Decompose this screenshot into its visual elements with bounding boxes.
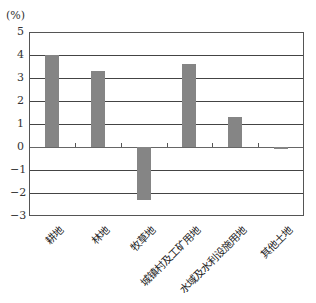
x-tick xyxy=(167,143,168,147)
bar-chart: (%) 543210−1−2−3 耕地林地牧草地城镇村及工矿用地水域及水利设施用… xyxy=(0,0,316,303)
y-tick-label: 2 xyxy=(10,95,24,106)
x-tick xyxy=(75,143,76,147)
bar xyxy=(137,147,151,200)
x-tick xyxy=(212,143,213,147)
x-tick xyxy=(258,143,259,147)
y-axis-unit: (%) xyxy=(6,9,25,22)
y-tick-label: −3 xyxy=(10,210,24,221)
bar xyxy=(91,71,105,147)
y-tick-label: −2 xyxy=(10,187,24,198)
y-tick-label: 4 xyxy=(10,49,24,60)
bar xyxy=(182,64,196,147)
x-tick-label: 林地 xyxy=(88,222,113,247)
bar xyxy=(228,117,242,147)
y-tick-label: 3 xyxy=(10,72,24,83)
y-tick-label: 0 xyxy=(10,141,24,152)
y-tick-label: 5 xyxy=(10,26,24,37)
bar xyxy=(45,55,59,147)
y-tick-label: 1 xyxy=(10,118,24,129)
plot-frame xyxy=(29,32,304,216)
bar xyxy=(274,147,288,149)
x-tick-label: 其他土地 xyxy=(257,222,296,261)
x-tick xyxy=(121,143,122,147)
y-tick-label: −1 xyxy=(10,164,24,175)
x-tick-label: 牧草地 xyxy=(126,222,158,254)
x-tick-label: 耕地 xyxy=(42,222,67,247)
